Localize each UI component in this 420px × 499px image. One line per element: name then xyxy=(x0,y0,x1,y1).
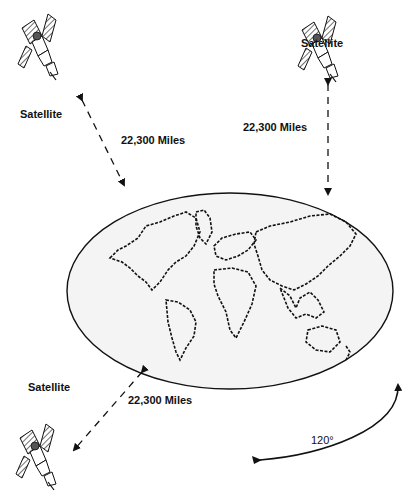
satellite-top-right-icon xyxy=(298,16,338,82)
distance-arrow-bottom-left xyxy=(74,372,142,450)
earth xyxy=(67,193,393,389)
distance-label-bottom-left: 22,300 Miles xyxy=(128,394,192,406)
satellite-label-bottom-left: Satellite xyxy=(28,381,70,393)
distance-label-top-left: 22,300 Miles xyxy=(121,134,185,146)
satellite-top-left-icon xyxy=(18,14,58,80)
distance-arrow-top-left xyxy=(82,100,124,185)
angle-label: 120° xyxy=(311,434,334,446)
satellite-label-top-left: Satellite xyxy=(20,108,62,120)
distance-label-top-right: 22,300 Miles xyxy=(243,121,307,133)
satellite-diagram: Satellite Satellite Satellite 22,300 Mil… xyxy=(0,0,420,499)
satellite-label-top-right: Satellite xyxy=(301,37,343,49)
rotation-arrow-120 xyxy=(252,385,398,464)
satellite-bottom-left-icon xyxy=(16,424,56,490)
diagram-canvas xyxy=(0,0,420,499)
